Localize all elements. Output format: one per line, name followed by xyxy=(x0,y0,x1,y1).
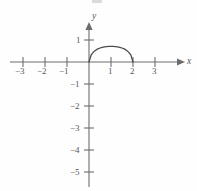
y-tick-label-neg5: −5 xyxy=(70,168,80,177)
x-tick-label-1: 1 xyxy=(108,67,113,76)
x-axis-label: x xyxy=(187,57,191,67)
axes-group xyxy=(10,22,185,187)
y-tick-label-neg4: −4 xyxy=(70,146,80,155)
y-tick-label-neg3: −3 xyxy=(70,124,80,133)
x-tick-label-3: 3 xyxy=(152,67,157,76)
x-tick-label-neg1: −1 xyxy=(59,67,69,76)
x-tick-label-neg3: −3 xyxy=(15,67,25,76)
y-axis-arrowhead xyxy=(85,22,92,30)
y-tick-label-1: 1 xyxy=(76,36,81,45)
y-tick-label-neg1: −1 xyxy=(70,80,80,89)
y-tick-label-neg2: −2 xyxy=(70,102,80,111)
coordinate-plane xyxy=(0,0,197,191)
graph-figure: −3 −2 −1 1 2 3 1 −1 −2 −3 −4 −5 y x xyxy=(0,0,197,191)
x-tick-label-2: 2 xyxy=(130,67,135,76)
x-tick-label-neg2: −2 xyxy=(37,67,47,76)
x-axis-arrowhead xyxy=(177,58,185,65)
y-axis-label: y xyxy=(92,12,96,22)
